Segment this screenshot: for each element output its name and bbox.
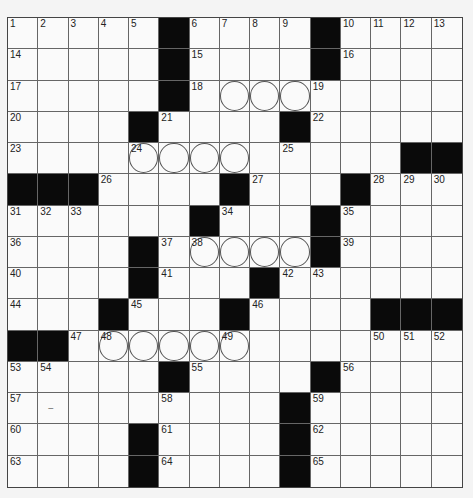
grid-cell[interactable]: [371, 143, 401, 174]
grid-cell[interactable]: [38, 81, 68, 112]
grid-cell[interactable]: 55: [190, 362, 220, 393]
grid-cell[interactable]: [129, 49, 159, 80]
grid-cell[interactable]: [190, 268, 220, 299]
grid-cell[interactable]: [69, 362, 99, 393]
grid-cell[interactable]: 12: [401, 18, 431, 49]
grid-cell[interactable]: [401, 49, 431, 80]
grid-cell[interactable]: [280, 49, 310, 80]
grid-cell[interactable]: [311, 143, 341, 174]
grid-cell[interactable]: [432, 81, 462, 112]
grid-cell[interactable]: [401, 362, 431, 393]
grid-cell[interactable]: [341, 143, 371, 174]
grid-cell[interactable]: [250, 112, 280, 143]
grid-cell[interactable]: 9: [280, 18, 310, 49]
grid-cell[interactable]: [190, 393, 220, 424]
grid-cell[interactable]: [280, 174, 310, 205]
grid-cell[interactable]: [311, 331, 341, 362]
grid-cell[interactable]: [401, 112, 431, 143]
grid-cell[interactable]: [99, 206, 129, 237]
grid-cell[interactable]: [432, 456, 462, 487]
grid-cell[interactable]: 42: [280, 268, 310, 299]
grid-cell[interactable]: 62: [311, 424, 341, 455]
grid-cell[interactable]: [280, 237, 310, 268]
grid-cell[interactable]: [69, 393, 99, 424]
grid-cell[interactable]: [250, 424, 280, 455]
grid-cell[interactable]: [159, 331, 189, 362]
grid-cell[interactable]: [311, 174, 341, 205]
grid-cell[interactable]: [220, 143, 250, 174]
grid-cell[interactable]: [341, 393, 371, 424]
grid-cell[interactable]: [250, 237, 280, 268]
grid-cell[interactable]: 40: [8, 268, 38, 299]
grid-cell[interactable]: 20: [8, 112, 38, 143]
grid-cell[interactable]: [432, 112, 462, 143]
grid-cell[interactable]: [220, 362, 250, 393]
grid-cell[interactable]: [311, 299, 341, 330]
grid-cell[interactable]: 18: [190, 81, 220, 112]
grid-cell[interactable]: 60: [8, 424, 38, 455]
grid-cell[interactable]: 49: [220, 331, 250, 362]
grid-cell[interactable]: [99, 81, 129, 112]
grid-cell[interactable]: [190, 143, 220, 174]
grid-cell[interactable]: [38, 424, 68, 455]
grid-cell[interactable]: [341, 331, 371, 362]
grid-cell[interactable]: [99, 237, 129, 268]
grid-cell[interactable]: [38, 268, 68, 299]
grid-cell[interactable]: [190, 112, 220, 143]
grid-cell[interactable]: [220, 268, 250, 299]
grid-cell[interactable]: [432, 268, 462, 299]
grid-cell[interactable]: 52: [432, 331, 462, 362]
grid-cell[interactable]: 39: [341, 237, 371, 268]
grid-cell[interactable]: [250, 143, 280, 174]
grid-cell[interactable]: 16: [341, 49, 371, 80]
grid-cell[interactable]: [38, 112, 68, 143]
grid-cell[interactable]: 4: [99, 18, 129, 49]
grid-cell[interactable]: [38, 299, 68, 330]
grid-cell[interactable]: [341, 268, 371, 299]
grid-cell[interactable]: [38, 49, 68, 80]
grid-cell[interactable]: [129, 393, 159, 424]
grid-cell[interactable]: 51: [401, 331, 431, 362]
grid-cell[interactable]: 13: [432, 18, 462, 49]
grid-cell[interactable]: 15: [190, 49, 220, 80]
grid-cell[interactable]: [38, 237, 68, 268]
grid-cell[interactable]: [280, 81, 310, 112]
grid-cell[interactable]: [250, 456, 280, 487]
grid-cell[interactable]: 19: [311, 81, 341, 112]
grid-cell[interactable]: 32: [38, 206, 68, 237]
grid-cell[interactable]: [371, 268, 401, 299]
grid-cell[interactable]: [99, 268, 129, 299]
grid-cell[interactable]: 26: [99, 174, 129, 205]
grid-cell[interactable]: [401, 393, 431, 424]
grid-cell[interactable]: [190, 174, 220, 205]
grid-cell[interactable]: [99, 112, 129, 143]
grid-cell[interactable]: 8: [250, 18, 280, 49]
grid-cell[interactable]: [69, 424, 99, 455]
grid-cell[interactable]: 63: [8, 456, 38, 487]
grid-cell[interactable]: [371, 393, 401, 424]
grid-cell[interactable]: 1: [8, 18, 38, 49]
grid-cell[interactable]: [371, 237, 401, 268]
grid-cell[interactable]: [69, 237, 99, 268]
grid-cell[interactable]: [401, 81, 431, 112]
grid-cell[interactable]: [341, 456, 371, 487]
grid-cell[interactable]: [129, 81, 159, 112]
grid-cell[interactable]: [220, 112, 250, 143]
grid-cell[interactable]: [69, 81, 99, 112]
grid-cell[interactable]: 45: [129, 299, 159, 330]
grid-cell[interactable]: [250, 331, 280, 362]
grid-cell[interactable]: 10: [341, 18, 371, 49]
grid-cell[interactable]: 38: [190, 237, 220, 268]
grid-cell[interactable]: [99, 393, 129, 424]
grid-cell[interactable]: [250, 49, 280, 80]
grid-cell[interactable]: [220, 456, 250, 487]
grid-cell[interactable]: [401, 268, 431, 299]
grid-cell[interactable]: [371, 456, 401, 487]
grid-cell[interactable]: 2: [38, 18, 68, 49]
grid-cell[interactable]: 64: [159, 456, 189, 487]
grid-cell[interactable]: 11: [371, 18, 401, 49]
grid-cell[interactable]: [129, 174, 159, 205]
grid-cell[interactable]: [250, 362, 280, 393]
grid-cell[interactable]: [341, 81, 371, 112]
grid-cell[interactable]: [220, 237, 250, 268]
